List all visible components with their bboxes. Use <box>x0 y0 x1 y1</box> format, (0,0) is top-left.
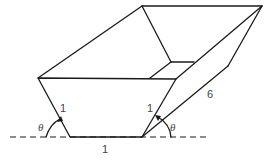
label-bottom: 1 <box>102 143 108 155</box>
trough-diagram: 1 1 1 6 θ θ <box>0 0 264 160</box>
top-left-edge <box>38 6 142 78</box>
label-left-side: 1 <box>60 102 66 114</box>
label-angle-right: θ <box>170 121 176 133</box>
back-left-slant <box>142 6 171 62</box>
front-face <box>38 78 176 137</box>
label-length: 6 <box>207 88 213 100</box>
label-right-side: 1 <box>147 102 153 114</box>
back-right-slant <box>228 6 262 66</box>
bottom-right-edge <box>142 66 228 137</box>
bottom-seam <box>150 62 171 78</box>
arrow-head-left <box>57 116 63 122</box>
top-right-edge <box>176 6 262 79</box>
label-angle-left: θ <box>38 121 44 133</box>
